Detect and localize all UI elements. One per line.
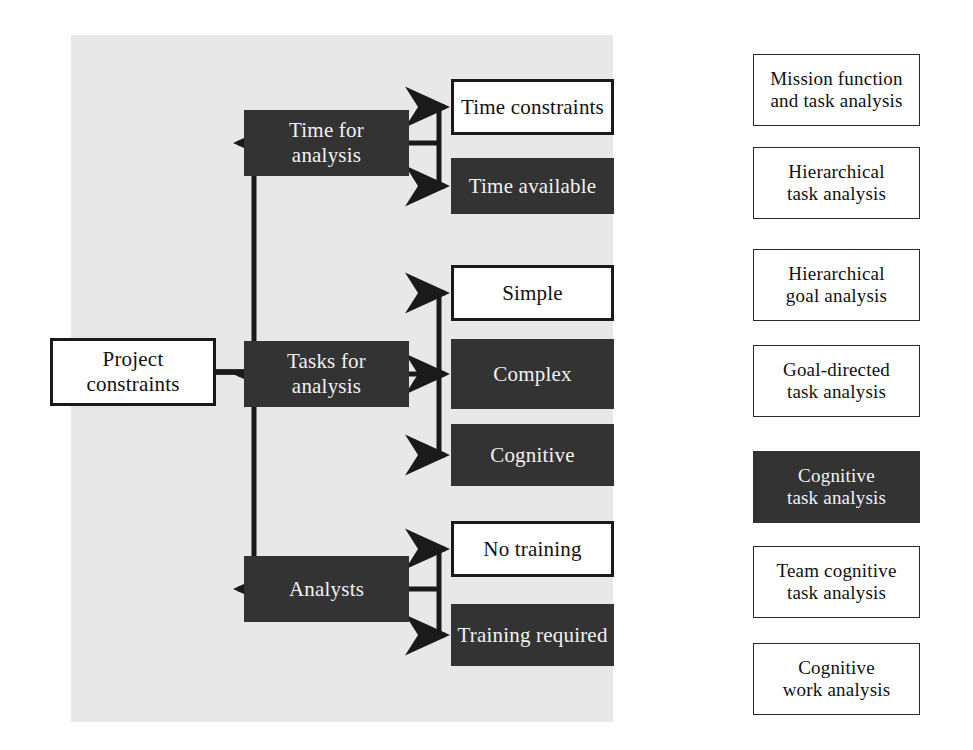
node-complex[interactable]: Complex xyxy=(451,339,614,409)
node-time-for-analysis[interactable]: Time for analysis xyxy=(244,110,409,176)
node-label: Complex xyxy=(493,362,571,387)
node-label-line1: Project xyxy=(86,347,179,372)
node-hierarchical-task-analysis[interactable]: Hierarchical task analysis xyxy=(753,147,920,219)
node-label-line1: Analysts xyxy=(289,577,364,602)
node-label-line2: task analysis xyxy=(776,582,896,604)
node-label-line2: task analysis xyxy=(787,487,886,509)
node-project-constraints[interactable]: Project constraints xyxy=(50,338,216,406)
node-label: Training required xyxy=(457,623,607,648)
diagram-canvas: Project constraints Time for analysis Ta… xyxy=(0,0,973,750)
node-tasks-for-analysis[interactable]: Tasks for analysis xyxy=(244,341,409,407)
node-label-line2: constraints xyxy=(86,372,179,397)
node-label-line2: task analysis xyxy=(787,183,886,205)
node-label-line2: task analysis xyxy=(783,381,890,403)
node-label-line2: goal analysis xyxy=(786,285,887,307)
node-cognitive-work-analysis[interactable]: Cognitive work analysis xyxy=(753,643,920,715)
node-label-line1: Time for xyxy=(289,118,364,143)
node-hierarchical-goal-analysis[interactable]: Hierarchical goal analysis xyxy=(753,249,920,321)
node-label-line1: Cognitive xyxy=(787,465,886,487)
node-label-line2: and task analysis xyxy=(770,90,903,112)
node-simple[interactable]: Simple xyxy=(451,265,614,321)
node-label-line1: Cognitive xyxy=(783,657,891,679)
node-label-line1: Hierarchical xyxy=(787,161,886,183)
node-label-line1: Mission function xyxy=(770,68,903,90)
node-label-line2: work analysis xyxy=(783,679,891,701)
node-time-available[interactable]: Time available xyxy=(451,158,614,214)
node-label-line1: Tasks for xyxy=(287,349,366,374)
node-label-line2: analysis xyxy=(289,143,364,168)
node-training-required[interactable]: Training required xyxy=(451,604,614,666)
node-label-line1: Hierarchical xyxy=(786,263,887,285)
node-time-constraints[interactable]: Time constraints xyxy=(451,79,614,135)
node-team-cognitive-task-analysis[interactable]: Team cognitive task analysis xyxy=(753,546,920,618)
node-label-line1: Goal-directed xyxy=(783,359,890,381)
node-analysts[interactable]: Analysts xyxy=(244,556,409,622)
node-label: Time constraints xyxy=(461,95,604,120)
node-label-line1: Team cognitive xyxy=(776,560,896,582)
node-cognitive[interactable]: Cognitive xyxy=(451,424,614,486)
node-label: Time available xyxy=(469,174,596,199)
node-goal-directed-task-analysis[interactable]: Goal-directed task analysis xyxy=(753,345,920,417)
node-label: No training xyxy=(483,537,581,562)
node-label-line2: analysis xyxy=(287,374,366,399)
node-mission-function-and-task-analysis[interactable]: Mission function and task analysis xyxy=(753,54,920,126)
node-label: Simple xyxy=(502,281,563,306)
node-no-training[interactable]: No training xyxy=(451,521,614,577)
node-label: Cognitive xyxy=(490,443,575,468)
node-cognitive-task-analysis[interactable]: Cognitive task analysis xyxy=(753,451,920,523)
